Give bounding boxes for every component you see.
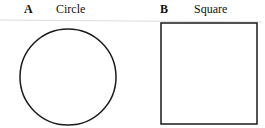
- circle-shape: [20, 29, 116, 125]
- diagram-canvas: [0, 0, 265, 128]
- header-rule: [0, 20, 262, 22]
- square-shape: [161, 23, 257, 124]
